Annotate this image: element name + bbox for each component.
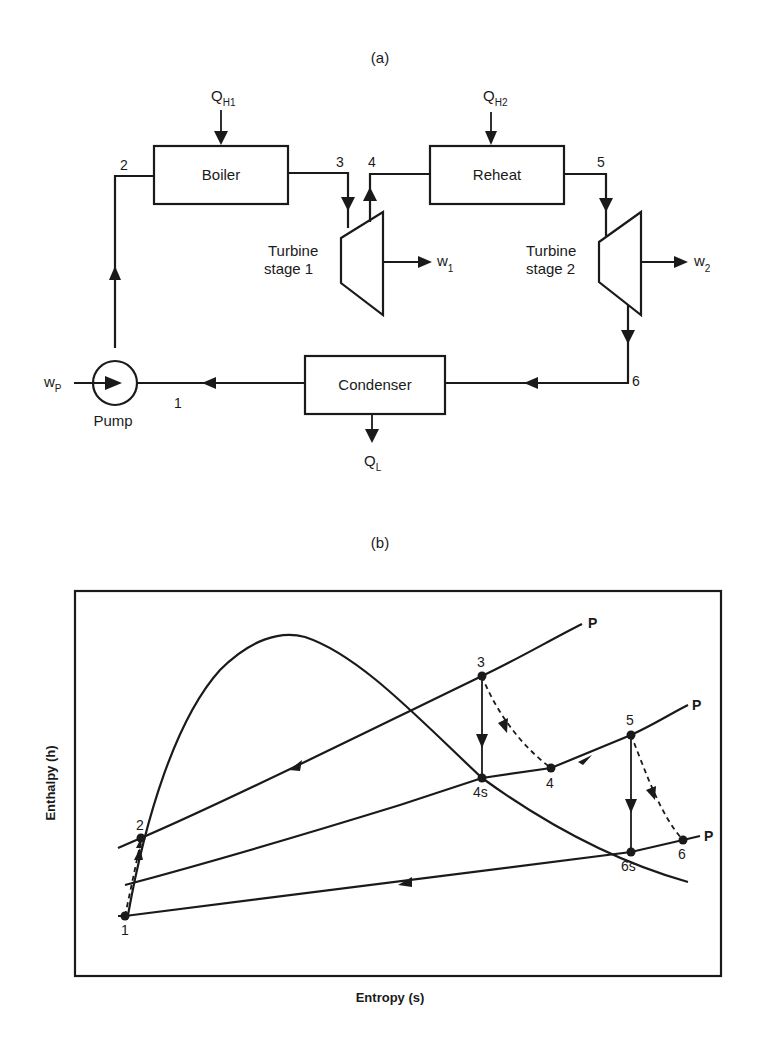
y-axis-label: Enthalpy (h): [43, 745, 58, 820]
isobar-low-pressure: [118, 836, 700, 916]
flow-arrow-up-icon: [109, 266, 121, 280]
state-point-6: [679, 836, 688, 845]
isobar-reheat-pressure: [125, 705, 688, 885]
flow-arrow-left-icon: [524, 377, 538, 389]
point-label-3: 3: [477, 654, 485, 670]
state-2-label: 2: [120, 157, 128, 173]
state-point-5: [627, 731, 636, 740]
turbine2-label-1: Turbine: [526, 242, 576, 259]
state-3-label: 3: [336, 154, 344, 170]
ql-label: QL: [364, 452, 382, 473]
w2-label: w2: [693, 252, 711, 274]
flow-arrow-icon: [289, 760, 302, 771]
pipe-boiler-to-turbine1: [288, 173, 348, 228]
ql-arrow-icon: [365, 429, 379, 443]
state-6-label: 6: [632, 373, 640, 389]
state-5-label: 5: [597, 154, 605, 170]
process-5-6-line: [631, 735, 683, 840]
point-label-6s: 6s: [621, 858, 636, 874]
w2-arrow-icon: [674, 256, 688, 268]
isobar-p-label-2: P: [692, 697, 701, 713]
isobar-p-label-1: P: [588, 615, 597, 631]
point-label-2: 2: [136, 817, 144, 833]
point-label-5: 5: [626, 712, 634, 728]
wp-label: wP: [43, 373, 62, 394]
state-point-3: [478, 672, 487, 681]
turbine1-label-2: stage 1: [264, 260, 313, 277]
condenser-label: Condenser: [338, 376, 411, 393]
saturation-dome-curve: [128, 635, 688, 915]
point-label-4: 4: [546, 775, 554, 791]
turbine1-label-1: Turbine: [268, 242, 318, 259]
w1-arrow-icon: [418, 256, 432, 268]
state-1-label: 1: [174, 395, 182, 411]
point-label-1: 1: [121, 922, 129, 938]
state-point-4s: [478, 774, 487, 783]
flow-arrow-down-icon: [621, 330, 635, 344]
state-point-4: [547, 764, 556, 773]
pump-label: Pump: [93, 412, 132, 429]
reheat-label: Reheat: [473, 166, 522, 183]
flow-arrow-down-icon: [341, 197, 355, 211]
qh1-arrow-icon: [214, 131, 228, 145]
qh2-arrow-icon: [485, 131, 497, 145]
flow-arrow-down-icon: [599, 198, 613, 212]
hs-diagram: P P P 1 2 3: [43, 591, 721, 1005]
flow-arrow-down-icon: [498, 718, 508, 733]
isobar-p-label-3: P: [704, 828, 713, 844]
pipe-reheat-to-turbine2: [564, 174, 606, 236]
state-4-label: 4: [368, 154, 376, 170]
state-point-1: [121, 912, 130, 921]
cycle-schematic: Boiler QH1 Turbine stage 1 w1 Reheat QH2…: [43, 87, 711, 473]
process-3-4-line: [482, 676, 551, 768]
plot-frame: [75, 591, 721, 976]
point-label-6: 6: [678, 846, 686, 862]
pipe-pump-to-boiler: [115, 176, 154, 348]
qh2-label: QH2: [483, 87, 508, 108]
x-axis-label: Entropy (s): [356, 990, 425, 1005]
state-point-2: [137, 834, 146, 843]
flow-arrow-up-icon: [363, 187, 377, 201]
panel-b-label: (b): [371, 534, 389, 551]
boiler-label: Boiler: [202, 166, 240, 183]
figure-canvas: (a) Boiler QH1 Turbine stage 1 w1 Reheat: [0, 0, 760, 1040]
state-point-6s: [627, 848, 636, 857]
flow-arrow-down-icon: [625, 799, 637, 813]
flow-arrow-down-icon: [646, 786, 656, 800]
qh1-label: QH1: [211, 87, 236, 108]
w1-label: w1: [436, 252, 454, 274]
flow-arrow-down-icon: [476, 734, 488, 748]
point-label-4s: 4s: [473, 784, 488, 800]
turbine2-label-2: stage 2: [526, 260, 575, 277]
flow-arrow-left-icon: [202, 377, 216, 389]
panel-a-label: (a): [371, 49, 389, 66]
pipe-turbine2-to-condenser: [445, 305, 628, 383]
isobar-high-pressure: [118, 624, 582, 848]
